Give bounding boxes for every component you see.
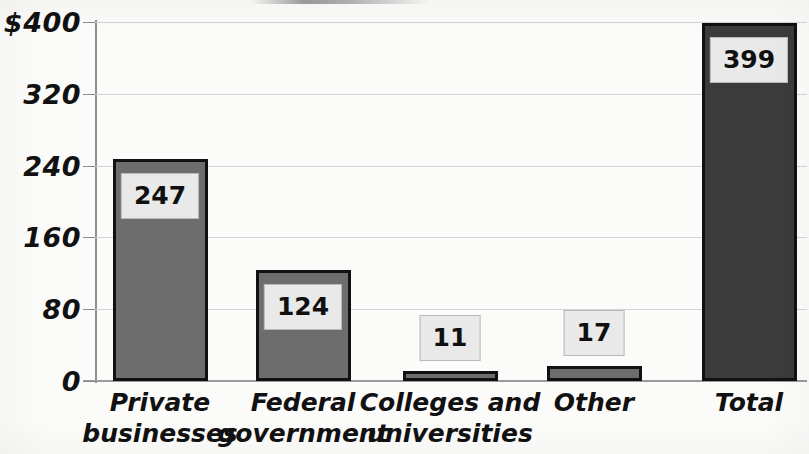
x-axis-labels-group: PrivatebusinessesFederalgovernmentColleg… [95, 388, 807, 454]
value-label: 17 [564, 310, 625, 356]
x-axis-label-line1: Federal [251, 388, 356, 417]
value-label: 11 [420, 315, 481, 361]
bar-colleges-and-universities[interactable] [403, 371, 498, 381]
x-axis-label-line1: Colleges and [360, 388, 541, 417]
x-axis-label-line2: businesses [82, 419, 238, 450]
y-axis-tick [83, 381, 95, 382]
x-axis-label-line1: Other [554, 388, 634, 417]
y-axis-tick [83, 22, 95, 23]
clipped-title-remnant [250, 0, 430, 4]
value-label: 399 [710, 37, 788, 83]
value-label: 247 [121, 173, 199, 219]
x-axis-label-line1: Private [110, 388, 211, 417]
x-axis-label-line2: universities [360, 419, 541, 450]
x-axis-label: Total [715, 388, 783, 419]
y-axis-tick-label: 240 [23, 150, 81, 181]
plot-area: 080160240320$400 2471241117399 [95, 22, 807, 381]
y-axis-tick [83, 94, 95, 95]
y-axis-tick-label: $400 [4, 7, 81, 38]
y-axis-tick-label: 80 [42, 294, 81, 325]
x-axis-label: Privatebusinesses [82, 388, 238, 449]
y-axis-tick [83, 309, 95, 310]
bar-other[interactable] [547, 366, 642, 381]
x-axis-label-line1: Total [715, 388, 783, 417]
bar-chart: 080160240320$400 2471241117399 Privatebu… [0, 0, 809, 454]
value-label: 124 [264, 284, 342, 330]
x-axis-label: Colleges anduniversities [360, 388, 541, 449]
gridline [95, 94, 807, 95]
x-axis-label: Other [554, 388, 634, 419]
y-axis-tick-label: 160 [23, 222, 81, 253]
y-axis-tick [83, 166, 95, 167]
gridline [95, 22, 807, 23]
y-axis-tick-label: 320 [23, 78, 81, 109]
y-axis-tick-label: 0 [62, 366, 81, 397]
y-axis-tick [83, 237, 95, 238]
